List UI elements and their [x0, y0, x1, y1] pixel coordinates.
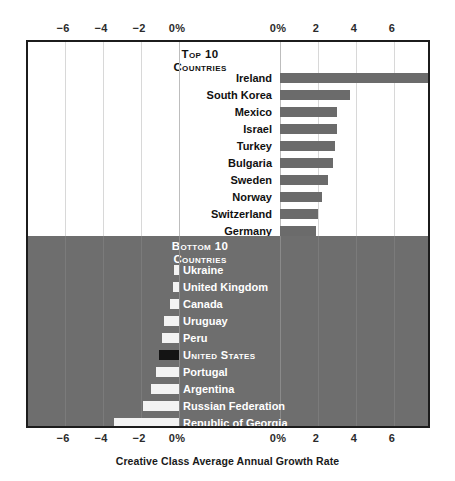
bar: [143, 401, 179, 411]
bottom-axis-tick-row: −6−4−20%0%246: [0, 432, 455, 448]
bottom-10-panel: Bottom 10 Countries UkraineUnited Kingdo…: [28, 236, 428, 426]
bar-label: Canada: [183, 296, 223, 312]
bar-row: Mexico: [28, 104, 428, 121]
bar: [280, 175, 328, 185]
bar: [151, 384, 180, 394]
top-10-heading-line1: Top 10: [182, 48, 219, 60]
bar: [173, 282, 179, 292]
bar-row: Uruguay: [28, 313, 428, 330]
bar-label: Sweden: [28, 172, 272, 188]
bar-row: Norway: [28, 189, 428, 206]
tick-label-right-0: 0%: [270, 432, 286, 444]
bar-label: Norway: [28, 189, 272, 205]
tick-label-left--2: −2: [133, 22, 146, 34]
tick-label-left--4: −4: [95, 22, 108, 34]
tick-label-left--6: −6: [57, 22, 70, 34]
bar-label: Argentina: [183, 381, 234, 397]
bar: [280, 73, 430, 83]
bar-row: Ukraine: [28, 262, 428, 279]
bar-row: Peru: [28, 330, 428, 347]
bar-row: Switzerland: [28, 206, 428, 223]
bar: [280, 124, 337, 134]
tick-label-left--4: −4: [95, 432, 108, 444]
bar-row: Portugal: [28, 364, 428, 381]
chart-caption: Creative Class Average Annual Growth Rat…: [0, 455, 455, 467]
bar: [174, 265, 179, 275]
bar: [280, 90, 350, 100]
tick-label-right-4: 4: [351, 432, 357, 444]
bar: [280, 192, 322, 202]
bar-label: Portugal: [183, 364, 228, 380]
bar-label: United Kingdom: [183, 279, 268, 295]
tick-label-left--2: −2: [133, 432, 146, 444]
bar-row: Argentina: [28, 381, 428, 398]
top-axis-tick-row: −6−4−20%0%246: [0, 22, 455, 38]
bar: [170, 299, 180, 309]
bar-row: Russian Federation: [28, 398, 428, 415]
top-10-panel: Top 10 Countries IrelandSouth KoreaMexic…: [28, 42, 428, 236]
tick-label-right-2: 2: [313, 432, 319, 444]
bar: [114, 418, 179, 428]
bar: [162, 333, 179, 343]
bar: [156, 367, 179, 377]
bar-label: Bulgaria: [28, 155, 272, 171]
bar: [280, 158, 333, 168]
bar-row: United States: [28, 347, 428, 364]
bar-label: Israel: [28, 121, 272, 137]
bar-highlighted: [159, 350, 179, 360]
bar-label: South Korea: [28, 87, 272, 103]
bar-label: Uruguay: [183, 313, 228, 329]
chart-figure: −6−4−20%0%246 Top 10 Countries IrelandSo…: [0, 0, 455, 481]
tick-label-left-0: 0%: [169, 432, 185, 444]
bar-row: Republic of Georgia: [28, 415, 428, 428]
bar-label: United States: [183, 347, 256, 363]
bar-label: Switzerland: [28, 206, 272, 222]
bar-label: Ireland: [28, 70, 272, 86]
bar-label: Republic of Georgia: [183, 415, 288, 428]
tick-label-right-6: 6: [389, 432, 395, 444]
bar-row: Bulgaria: [28, 155, 428, 172]
bar: [164, 316, 179, 326]
bar-label: Mexico: [28, 104, 272, 120]
tick-label-right-4: 4: [351, 22, 357, 34]
bar-label: Turkey: [28, 138, 272, 154]
bar: [280, 226, 316, 236]
bar-row: United Kingdom: [28, 279, 428, 296]
bar-row: Ireland: [28, 70, 428, 87]
tick-label-right-2: 2: [313, 22, 319, 34]
bar: [280, 209, 318, 219]
bar-label: Russian Federation: [183, 398, 285, 414]
tick-label-right-0: 0%: [270, 22, 286, 34]
bar-row: Sweden: [28, 172, 428, 189]
bar-row: South Korea: [28, 87, 428, 104]
bar: [280, 141, 335, 151]
tick-label-left-0: 0%: [169, 22, 185, 34]
bar-row: Israel: [28, 121, 428, 138]
bar-label: Peru: [183, 330, 207, 346]
tick-label-right-6: 6: [389, 22, 395, 34]
bar: [280, 107, 337, 117]
tick-label-left--6: −6: [57, 432, 70, 444]
plot-frame: Top 10 Countries IrelandSouth KoreaMexic…: [26, 40, 430, 428]
bar-row: Turkey: [28, 138, 428, 155]
bottom-10-heading-line1: Bottom 10: [172, 240, 229, 252]
bar-row: Canada: [28, 296, 428, 313]
bar-label: Ukraine: [183, 262, 223, 278]
